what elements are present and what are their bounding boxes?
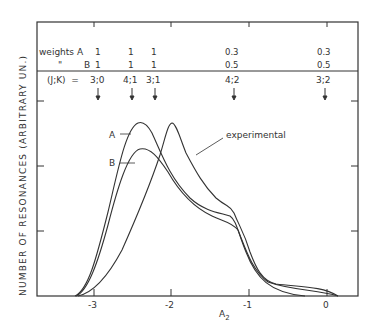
weight-b-2: 1	[151, 60, 157, 70]
x-tick-label: -2	[165, 300, 174, 310]
jk-0: 3;0	[90, 75, 105, 85]
jk-label: (J;K) =	[47, 75, 82, 85]
jk-2: 3;1	[146, 75, 160, 85]
label-a: A	[109, 130, 116, 140]
weight-b-3: 0.5	[225, 60, 239, 70]
jk-3: 4;2	[225, 75, 239, 85]
weight-b-0: 1	[95, 60, 101, 70]
weight-b-4: 0.5	[317, 60, 331, 70]
weight-a-2: 1	[151, 47, 157, 57]
chart: weights A " B 1 1 1 1 1 1 0.3 0.5 0.3 0.…	[0, 0, 377, 326]
weight-a-1: 1	[128, 47, 134, 57]
bottom-ticks	[94, 289, 327, 296]
weight-b-1: 1	[128, 60, 134, 70]
x-axis-label: A2	[219, 309, 230, 322]
weights-b-ditto: "	[58, 60, 62, 70]
label-experimental: experimental	[226, 130, 286, 140]
label-b: B	[109, 158, 115, 168]
side-ticks	[37, 101, 358, 231]
weights-a-label: weights A	[39, 47, 84, 57]
weight-a-4: 0.3	[317, 47, 331, 57]
x-tick-label: -1	[243, 300, 252, 310]
weight-a-0: 1	[95, 47, 101, 57]
label-experimental-leader	[196, 138, 223, 155]
jk-1: 4;1	[123, 75, 137, 85]
top-ticks	[94, 22, 327, 27]
weight-a-3: 0.3	[225, 47, 239, 57]
series-b-curve	[76, 149, 338, 296]
transition-arrows	[96, 88, 327, 100]
x-tick-label: -3	[88, 300, 97, 310]
x-tick-label: 0	[323, 300, 329, 310]
y-axis-label: NUMBER OF RESONANCES (ARBITRARY UN.)	[18, 55, 28, 296]
weights-b-letter: B	[84, 60, 90, 70]
jk-4: 3;2	[316, 75, 330, 85]
